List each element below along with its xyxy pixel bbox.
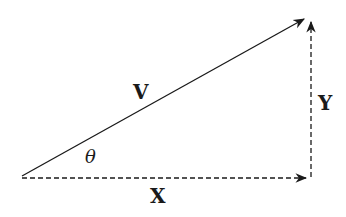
- label-x: X: [150, 186, 166, 206]
- label-y: Y: [318, 93, 332, 113]
- label-v: V: [133, 82, 149, 102]
- label-theta: θ: [85, 148, 96, 166]
- diagram-svg: [0, 0, 346, 217]
- vector-diagram: V θ X Y: [0, 0, 346, 217]
- vector-v-arrow: [22, 19, 304, 176]
